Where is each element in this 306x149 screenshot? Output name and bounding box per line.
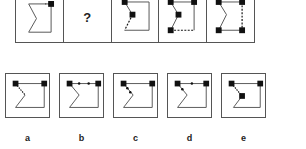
option-b[interactable]: b	[59, 73, 104, 128]
option-d-box[interactable]	[167, 73, 212, 118]
option-a[interactable]: a	[5, 73, 50, 128]
option-c-box[interactable]	[113, 73, 158, 118]
option-e-label: e	[221, 133, 266, 143]
sequence-cell-5	[206, 0, 254, 42]
sequence-cell-missing: ?	[63, 0, 111, 42]
option-c[interactable]: c	[113, 73, 158, 128]
option-a-figure	[6, 74, 49, 117]
question-mark: ?	[64, 10, 111, 25]
option-a-label: a	[5, 133, 50, 143]
option-c-figure	[114, 74, 157, 117]
figure-3	[112, 0, 159, 42]
option-b-box[interactable]	[59, 73, 104, 118]
sequence-strip: ?	[15, 0, 255, 43]
option-d-figure	[168, 74, 211, 117]
option-c-label: c	[113, 133, 158, 143]
option-d[interactable]: d	[167, 73, 212, 128]
sequence-cell-3	[111, 0, 159, 42]
figure-4	[159, 0, 206, 42]
figure-5	[207, 0, 254, 42]
figure-1	[16, 0, 63, 42]
sequence-cell-4	[158, 0, 206, 42]
sequence-cell-1	[16, 0, 63, 42]
option-b-label: b	[59, 133, 104, 143]
option-b-figure	[60, 74, 103, 117]
option-e-box[interactable]	[221, 73, 266, 118]
option-d-label: d	[167, 133, 212, 143]
option-a-box[interactable]	[5, 73, 50, 118]
option-e-figure	[222, 74, 265, 117]
option-e[interactable]: e	[221, 73, 266, 128]
